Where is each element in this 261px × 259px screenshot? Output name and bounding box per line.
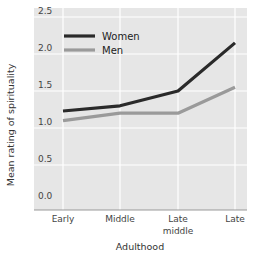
y-axis-title: Mean rating of spirituality (5, 63, 16, 186)
x-axis-title: Adulthood (116, 241, 164, 252)
y-tick-label: 0.0 (38, 191, 53, 201)
x-tick-label: Early (52, 214, 75, 224)
legend-label-women: Women (102, 31, 140, 42)
x-tick-labels: EarlyMiddleLatemiddleLate (52, 214, 246, 236)
y-tick-label: 0.5 (38, 154, 52, 164)
x-tick-label: Late (168, 214, 188, 224)
y-tick-label: 1.0 (38, 117, 53, 127)
y-tick-label: 2.0 (38, 43, 53, 53)
x-tick-label: Late (225, 214, 245, 224)
y-tick-label: 1.5 (38, 80, 52, 90)
legend-label-men: Men (102, 45, 123, 56)
x-tick-label: middle (163, 226, 194, 236)
y-tick-label: 2.5 (38, 6, 52, 16)
plot-background (34, 8, 247, 210)
x-tick-label: Middle (105, 214, 135, 224)
line-chart: 0.00.51.01.52.02.5 EarlyMiddleLatemiddle… (0, 0, 261, 259)
